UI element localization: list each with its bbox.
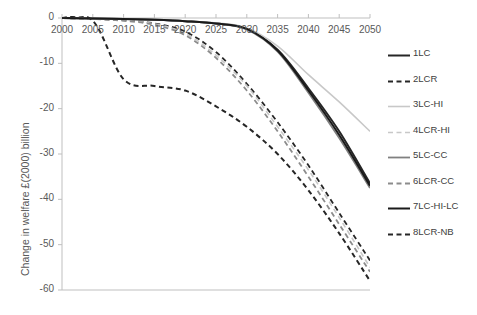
legend-label: 3LC-HI <box>413 99 443 109</box>
legend-label: 5LC-CC <box>413 150 447 160</box>
series-line-7lc-hi-lc <box>62 18 370 186</box>
y-tick-label: -50 <box>20 238 54 249</box>
y-tick-label: -60 <box>20 283 54 294</box>
legend-label: 7LC-HI-LC <box>413 201 458 211</box>
legend-item-3lc-hi[interactable]: 3LC-HI <box>388 91 476 117</box>
legend-swatch-icon <box>388 226 410 237</box>
legend-label: 8LCR-NB <box>413 227 454 237</box>
legend-item-2lcr[interactable]: 2LCR <box>388 66 476 92</box>
legend-label: 4LCR-HI <box>413 125 450 135</box>
legend-swatch-icon <box>388 98 410 109</box>
legend-label: 6LCR-CC <box>413 176 454 186</box>
series-line-1lc <box>62 18 370 183</box>
legend-swatch-icon <box>388 149 410 160</box>
series-line-4lcr-hi <box>62 18 370 267</box>
legend-item-4lcr-hi[interactable]: 4LCR-HI <box>388 117 476 143</box>
legend-label: 1LC <box>413 48 430 58</box>
legend-label: 2LCR <box>413 74 437 84</box>
series-line-5lc-cc <box>62 18 370 188</box>
x-tick-label: 2050 <box>350 24 390 35</box>
chart-legend: 1LC2LCR3LC-HI4LCR-HI5LC-CC6LCR-CC7LC-HI-… <box>388 40 476 244</box>
legend-swatch-icon <box>388 47 410 58</box>
legend-item-7lc-hi-lc[interactable]: 7LC-HI-LC <box>388 193 476 219</box>
y-tick-label: 0 <box>20 11 54 22</box>
y-tick-label: -30 <box>20 147 54 158</box>
legend-swatch-icon <box>388 124 410 135</box>
legend-item-6lcr-cc[interactable]: 6LCR-CC <box>388 168 476 194</box>
y-tick-label: -20 <box>20 102 54 113</box>
legend-swatch-icon <box>388 175 410 186</box>
legend-swatch-icon <box>388 200 410 211</box>
y-tick-label: -40 <box>20 192 54 203</box>
y-tick-label: -10 <box>20 56 54 67</box>
legend-item-5lc-cc[interactable]: 5LC-CC <box>388 142 476 168</box>
legend-item-8lcr-nb[interactable]: 8LCR-NB <box>388 219 476 245</box>
legend-item-1lc[interactable]: 1LC <box>388 40 476 66</box>
legend-swatch-icon <box>388 73 410 84</box>
line-chart: Change in welfare £(2000) billion 0-10-2… <box>0 0 477 315</box>
